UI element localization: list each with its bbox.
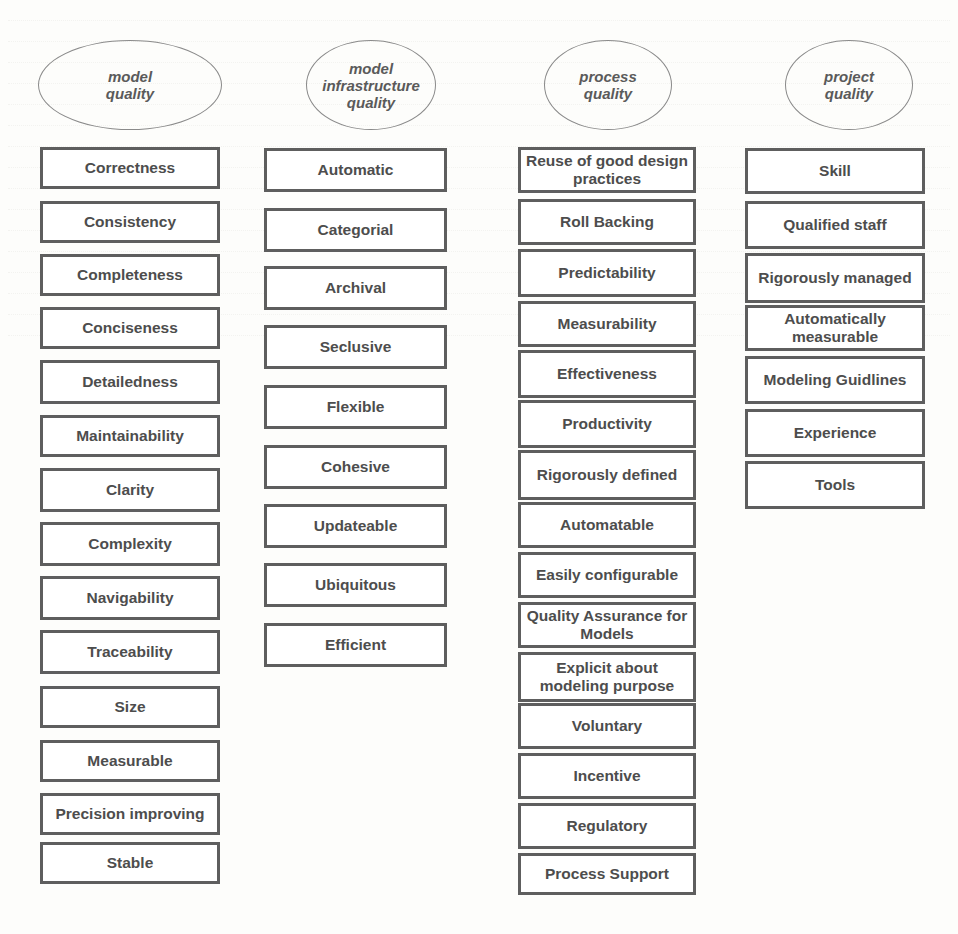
quality-attribute-label: Rigorously managed — [758, 269, 911, 287]
quality-attribute-label: Clarity — [106, 481, 154, 499]
quality-attribute-box: Skill — [745, 148, 925, 194]
quality-attribute-label: Qualified staff — [783, 216, 886, 234]
quality-attribute-box: Automatable — [518, 502, 696, 548]
quality-attribute-label: Voluntary — [572, 717, 642, 735]
quality-attribute-label: Rigorously defined — [537, 466, 677, 484]
quality-attribute-label: Automatically measurable — [748, 310, 922, 346]
quality-attribute-label: Roll Backing — [560, 213, 654, 231]
category-oval-model-quality: modelquality — [38, 40, 222, 130]
quality-attribute-box: Flexible — [264, 385, 447, 429]
quality-attribute-box: Effectiveness — [518, 350, 696, 398]
quality-attribute-label: Quality Assurance for Models — [521, 607, 693, 643]
quality-attribute-box: Experience — [745, 409, 925, 457]
quality-attribute-box: Roll Backing — [518, 199, 696, 245]
quality-attribute-label: Predictability — [558, 264, 655, 282]
quality-attribute-box: Explicit about modeling purpose — [518, 652, 696, 702]
quality-attribute-box: Efficient — [264, 623, 447, 667]
quality-attribute-box: Quality Assurance for Models — [518, 602, 696, 648]
quality-attribute-label: Seclusive — [320, 338, 392, 356]
quality-attribute-label: Automatic — [318, 161, 394, 179]
quality-attribute-box: Productivity — [518, 400, 696, 448]
quality-attribute-box: Completeness — [40, 254, 220, 296]
bleed-line — [8, 0, 950, 21]
quality-attribute-label: Detailedness — [82, 373, 178, 391]
quality-attribute-label: Ubiquitous — [315, 576, 396, 594]
quality-attribute-box: Voluntary — [518, 703, 696, 749]
quality-attribute-label: Categorial — [318, 221, 394, 239]
quality-attribute-label: Navigability — [87, 589, 174, 607]
quality-attribute-label: Process Support — [545, 865, 669, 883]
quality-attribute-label: Experience — [794, 424, 877, 442]
quality-attribute-box: Automatic — [264, 148, 447, 192]
category-title: projectquality — [824, 68, 874, 102]
category-title: processquality — [579, 68, 637, 102]
quality-attribute-label: Efficient — [325, 636, 386, 654]
quality-attribute-label: Easily configurable — [536, 566, 678, 584]
quality-attribute-box: Clarity — [40, 468, 220, 512]
quality-attribute-box: Rigorously defined — [518, 450, 696, 500]
quality-attribute-label: Productivity — [562, 415, 652, 433]
quality-attribute-box: Categorial — [264, 208, 447, 252]
quality-attribute-label: Regulatory — [567, 817, 648, 835]
quality-attribute-label: Tools — [815, 476, 855, 494]
category-oval-model-infrastructure-quality: modelinfrastructurequality — [306, 40, 436, 130]
quality-attribute-box: Traceability — [40, 630, 220, 674]
quality-attribute-label: Size — [114, 698, 145, 716]
quality-attribute-label: Modeling Guidlines — [764, 371, 907, 389]
quality-attribute-label: Reuse of good design practices — [521, 152, 693, 188]
quality-attribute-box: Complexity — [40, 522, 220, 566]
quality-attribute-label: Effectiveness — [557, 365, 657, 383]
category-title: modelinfrastructurequality — [322, 60, 420, 111]
quality-attribute-label: Incentive — [573, 767, 640, 785]
quality-attribute-box: Navigability — [40, 576, 220, 620]
quality-attribute-box: Regulatory — [518, 803, 696, 849]
quality-attribute-box: Measurability — [518, 301, 696, 347]
quality-attribute-box: Modeling Guidlines — [745, 356, 925, 404]
quality-attribute-label: Consistency — [84, 213, 176, 231]
quality-attribute-box: Easily configurable — [518, 552, 696, 598]
quality-attribute-box: Process Support — [518, 853, 696, 895]
quality-attribute-label: Cohesive — [321, 458, 390, 476]
bleed-line — [8, 126, 950, 147]
quality-attribute-box: Correctness — [40, 147, 220, 189]
quality-attribute-label: Automatable — [560, 516, 654, 534]
quality-attribute-box: Qualified staff — [745, 201, 925, 249]
quality-attribute-box: Consistency — [40, 201, 220, 243]
quality-attribute-label: Explicit about modeling purpose — [521, 659, 693, 695]
quality-attribute-box: Incentive — [518, 753, 696, 799]
quality-attribute-box: Rigorously managed — [745, 253, 925, 303]
quality-attribute-label: Complexity — [88, 535, 172, 553]
quality-attribute-label: Completeness — [77, 266, 183, 284]
quality-attribute-box: Seclusive — [264, 325, 447, 369]
quality-attribute-box: Tools — [745, 461, 925, 509]
quality-attribute-label: Skill — [819, 162, 851, 180]
category-oval-process-quality: processquality — [544, 40, 672, 130]
quality-attribute-box: Ubiquitous — [264, 563, 447, 607]
quality-attribute-box: Measurable — [40, 740, 220, 782]
quality-attribute-box: Cohesive — [264, 445, 447, 489]
bleed-line — [8, 21, 950, 42]
quality-attribute-box: Automatically measurable — [745, 305, 925, 351]
quality-attribute-label: Correctness — [85, 159, 175, 177]
quality-attribute-label: Precision improving — [55, 805, 204, 823]
quality-attribute-label: Traceability — [87, 643, 172, 661]
quality-attribute-box: Size — [40, 686, 220, 728]
quality-attribute-label: Flexible — [327, 398, 385, 416]
category-oval-project-quality: projectquality — [785, 40, 913, 130]
quality-attribute-box: Maintainability — [40, 415, 220, 457]
quality-attribute-box: Stable — [40, 842, 220, 884]
quality-attribute-label: Measurability — [557, 315, 656, 333]
category-title: modelquality — [106, 68, 154, 102]
quality-attribute-label: Maintainability — [76, 427, 184, 445]
quality-attribute-box: Updateable — [264, 504, 447, 548]
quality-attribute-label: Measurable — [87, 752, 172, 770]
quality-attribute-box: Detailedness — [40, 360, 220, 404]
quality-attribute-box: Archival — [264, 266, 447, 310]
quality-attribute-box: Predictability — [518, 249, 696, 297]
quality-attribute-box: Reuse of good design practices — [518, 147, 696, 193]
quality-attribute-label: Updateable — [314, 517, 398, 535]
quality-attribute-box: Precision improving — [40, 793, 220, 835]
quality-attribute-label: Archival — [325, 279, 386, 297]
quality-attribute-label: Conciseness — [82, 319, 178, 337]
quality-attribute-box: Conciseness — [40, 307, 220, 349]
